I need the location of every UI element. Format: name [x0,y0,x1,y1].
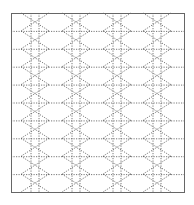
horizontal-dotted-lines [11,31,184,174]
diamond-x-pattern [21,13,171,192]
lattice-diagram [0,0,194,205]
